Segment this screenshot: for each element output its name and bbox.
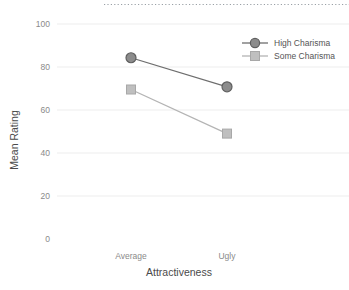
chart-container: 100 80 60 40 20 0 Mean Rating Average Ug…: [0, 0, 349, 290]
legend-entry-some-charisma[interactable]: Some Charisma: [242, 51, 335, 61]
series-high-charisma: [126, 53, 232, 92]
y-tick-label-40: 40: [41, 148, 51, 158]
y-tick-label-100: 100: [36, 19, 50, 29]
y-tick-label-80: 80: [41, 62, 51, 72]
data-point-some-charisma-ugly: [223, 129, 232, 138]
chart-legend: High Charisma Some Charisma: [242, 38, 335, 61]
mean-rating-line-chart: 100 80 60 40 20 0 Mean Rating Average Ug…: [0, 0, 349, 290]
series-some-charisma-line: [131, 90, 227, 134]
gridlines: [57, 24, 349, 196]
series-some-charisma: [127, 85, 232, 138]
legend-marker-square-icon: [251, 52, 260, 61]
x-tick-label-ugly: Ugly: [218, 251, 236, 261]
x-axis-tick-labels: Average Ugly: [115, 251, 236, 261]
x-axis-title: Attractiveness: [146, 266, 212, 278]
y-tick-label-20: 20: [41, 191, 51, 201]
y-axis-title: Mean Rating: [8, 110, 20, 170]
y-tick-label-0: 0: [45, 234, 50, 244]
series-high-charisma-line: [131, 58, 227, 87]
data-point-some-charisma-average: [127, 85, 136, 94]
legend-entry-high-charisma[interactable]: High Charisma: [242, 38, 330, 48]
y-tick-label-60: 60: [41, 105, 51, 115]
y-axis-tick-labels: 100 80 60 40 20 0: [36, 19, 50, 244]
data-point-high-charisma-average: [126, 53, 136, 63]
x-tick-label-average: Average: [115, 251, 147, 261]
legend-label-some-charisma: Some Charisma: [274, 51, 335, 61]
legend-marker-circle-icon: [250, 38, 259, 47]
legend-label-high-charisma: High Charisma: [274, 38, 330, 48]
data-point-high-charisma-ugly: [222, 82, 232, 92]
